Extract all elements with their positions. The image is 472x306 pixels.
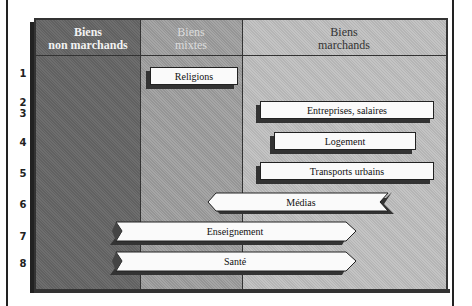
item-medias-arrow: Médias xyxy=(206,192,396,216)
item-label: Enseignement xyxy=(110,221,360,242)
item-label: Transports urbains xyxy=(310,166,384,177)
row-label-3: 3 xyxy=(18,108,28,119)
item-enseignement-arrow: Enseignement xyxy=(110,221,360,247)
item-entreprises-salaires: Entreprises, salaires xyxy=(260,101,434,119)
item-label: Logement xyxy=(325,136,366,147)
row-label-5: 5 xyxy=(18,168,28,179)
header-line-1: Biens xyxy=(242,26,446,39)
header-divider xyxy=(36,55,446,56)
frame-right-border xyxy=(452,0,454,306)
frame-left-border xyxy=(6,0,8,306)
row-label-6: 6 xyxy=(18,199,28,210)
item-religions: Religions xyxy=(150,67,238,85)
header-mixed-goods: Biens mixtes xyxy=(140,22,242,55)
item-label: Médias xyxy=(206,192,396,212)
header-line-1: Biens xyxy=(140,26,242,39)
item-label: Religions xyxy=(175,71,213,82)
column-market-goods xyxy=(242,20,446,289)
header-non-market-goods: Biens non marchands xyxy=(36,22,140,55)
item-sante-arrow: Santé xyxy=(110,251,360,277)
row-label-4: 4 xyxy=(18,137,28,148)
header-line-2: marchands xyxy=(242,39,446,52)
header-market-goods: Biens marchands xyxy=(242,22,446,55)
header-line-2: non marchands xyxy=(36,39,140,52)
item-label: Santé xyxy=(110,251,360,272)
item-transports-urbains: Transports urbains xyxy=(260,162,434,180)
column-non-market-goods xyxy=(36,20,140,289)
header-line-2: mixtes xyxy=(140,39,242,52)
row-label-1: 1 xyxy=(18,68,28,79)
row-label-2: 2 xyxy=(18,97,28,108)
item-logement: Logement xyxy=(274,132,416,150)
item-label: Entreprises, salaires xyxy=(307,105,387,116)
column-mixed-goods xyxy=(140,20,243,289)
row-label-8: 8 xyxy=(18,258,28,269)
row-label-7: 7 xyxy=(18,231,28,242)
header-line-1: Biens xyxy=(36,26,140,39)
